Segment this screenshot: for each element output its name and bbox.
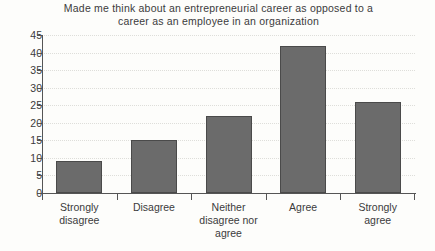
x-axis-tick-mark <box>414 194 415 200</box>
bar <box>355 102 401 193</box>
bar <box>56 161 102 193</box>
x-axis-category-label: Neitherdisagree noragree <box>191 201 266 240</box>
x-axis-labels: StronglydisagreeDisagreeNeitherdisagree … <box>42 201 416 249</box>
bar <box>206 116 252 193</box>
x-axis-category-label-line: disagree <box>42 214 117 227</box>
y-axis-line <box>42 35 43 194</box>
bar <box>280 46 326 193</box>
y-axis-ticks: 051015202530354045 <box>0 35 42 194</box>
x-axis-category-label: Disagree <box>117 201 192 214</box>
x-axis-tick-mark <box>117 194 118 200</box>
plot-area <box>42 35 415 193</box>
x-axis-tick-mark <box>42 194 43 200</box>
bar <box>131 140 177 193</box>
x-axis-category-label-line: Strongly <box>340 201 415 214</box>
x-axis-tick-mark <box>340 194 341 200</box>
x-axis-category-label-line: disagree nor <box>191 214 266 227</box>
x-axis-category-label: Stronglydisagree <box>42 201 117 227</box>
x-axis-tick-mark <box>191 194 192 200</box>
x-axis-ticks <box>42 194 416 200</box>
x-axis-category-label: Agree <box>266 201 341 214</box>
chart-title-line-1: Made me think about an entrepreneurial c… <box>46 2 391 15</box>
bars <box>42 35 415 193</box>
chart-title: Made me think about an entrepreneurial c… <box>46 2 391 28</box>
x-axis-category-label-line: Neither <box>191 201 266 214</box>
x-axis-category-label-line: Strongly <box>42 201 117 214</box>
x-axis-category-label-line: agree <box>191 227 266 240</box>
x-axis-category-label: Stronglyagree <box>340 201 415 227</box>
chart-title-line-2: career as an employee in an organization <box>46 15 391 28</box>
bar-chart: Made me think about an entrepreneurial c… <box>0 0 435 251</box>
x-axis-tick-mark <box>266 194 267 200</box>
x-axis-category-label-line: agree <box>340 214 415 227</box>
x-axis-category-label-line: Disagree <box>117 201 192 214</box>
x-axis-category-label-line: Agree <box>266 201 341 214</box>
